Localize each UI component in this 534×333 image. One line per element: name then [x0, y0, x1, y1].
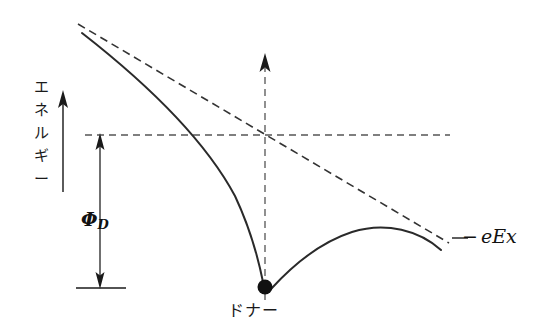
energy-axis-label: エ ネ ル ギ ー: [29, 76, 53, 191]
barrier-depth-label: ΦD: [81, 208, 109, 232]
energy-char-3: ギ: [29, 145, 53, 168]
donor-label: ドナー: [228, 297, 279, 321]
phi-subscript: D: [98, 217, 109, 232]
energy-char-1: ネ: [29, 99, 53, 122]
eex-expression: eEx: [481, 225, 517, 247]
energy-char-4: ー: [29, 168, 53, 191]
donor-potential-diagram: [0, 0, 534, 333]
energy-char-2: ル: [29, 122, 53, 145]
field-line-label: −eEx: [462, 225, 517, 247]
minus-sign: −: [462, 225, 478, 247]
phi-symbol: Φ: [81, 208, 98, 230]
energy-char-0: エ: [29, 76, 53, 99]
donor-dot: [258, 280, 273, 295]
